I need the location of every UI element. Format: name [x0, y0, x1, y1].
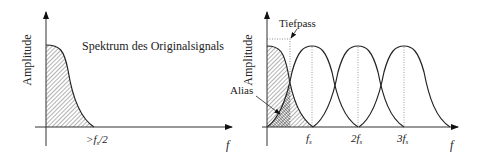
lowpass-pointer	[291, 29, 297, 38]
cutoff-label: >fs/2	[86, 133, 108, 147]
tick-label-2fs: 2fs	[351, 132, 363, 146]
lowpass-label: Tiefpass	[279, 17, 316, 29]
original-spectrum-fill	[46, 45, 94, 127]
tick-label-3fs: 3fs	[396, 132, 409, 146]
left-y-axis-label: Amplitude	[20, 34, 34, 85]
left-x-axis-label: f	[226, 138, 231, 152]
right-y-axis-label: Amplitude	[241, 34, 255, 85]
cutoff-label-suffix: /2	[98, 133, 108, 145]
left-plot: Amplitude Spektrum des Originalsignals f…	[20, 12, 232, 152]
right-plot: Tiefpass Alias Amplitude f fs 2fs 3fs	[230, 12, 458, 152]
tick-label-fs: fs	[306, 132, 312, 146]
right-x-axis-label: f	[450, 138, 455, 152]
left-plot-title: Spektrum des Originalsignals	[82, 39, 224, 53]
aliasing-diagram: Amplitude Spektrum des Originalsignals f…	[0, 0, 481, 157]
